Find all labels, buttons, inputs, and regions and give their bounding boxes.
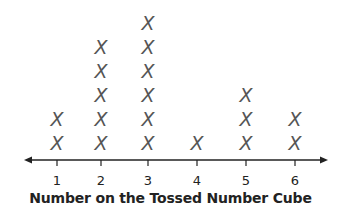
x-mark: X	[140, 108, 155, 130]
tick-marks	[57, 160, 295, 166]
x-mark: X	[49, 108, 64, 130]
tick-label: 5	[242, 173, 250, 188]
x-mark: X	[238, 84, 253, 106]
x-mark: X	[238, 108, 253, 130]
x-mark: X	[93, 108, 108, 130]
x-mark: X	[140, 12, 155, 34]
x-mark: X	[49, 132, 64, 154]
x-mark: X	[287, 108, 302, 130]
x-mark: X	[189, 132, 204, 154]
x-marks: XXXXXXXXXXXXXXXXXXX	[49, 12, 302, 154]
x-mark: X	[140, 36, 155, 58]
tick-label: 6	[291, 173, 299, 188]
x-mark: X	[287, 132, 302, 154]
x-mark: X	[93, 36, 108, 58]
x-mark: X	[140, 84, 155, 106]
x-axis	[24, 157, 328, 164]
tick-label: 4	[193, 173, 201, 188]
x-mark: X	[238, 132, 253, 154]
x-mark: X	[140, 60, 155, 82]
tick-labels: 123456	[53, 173, 299, 188]
tick-label: 3	[144, 173, 152, 188]
right-arrow-icon	[320, 157, 328, 164]
x-mark: X	[93, 84, 108, 106]
tick-label: 2	[97, 173, 105, 188]
x-mark: X	[93, 132, 108, 154]
left-arrow-icon	[24, 157, 32, 164]
line-plot: XXXXXXXXXXXXXXXXXXX 123456	[0, 0, 341, 218]
tick-label: 1	[53, 173, 61, 188]
x-axis-label: Number on the Tossed Number Cube	[0, 190, 341, 206]
x-mark: X	[93, 60, 108, 82]
x-mark: X	[140, 132, 155, 154]
